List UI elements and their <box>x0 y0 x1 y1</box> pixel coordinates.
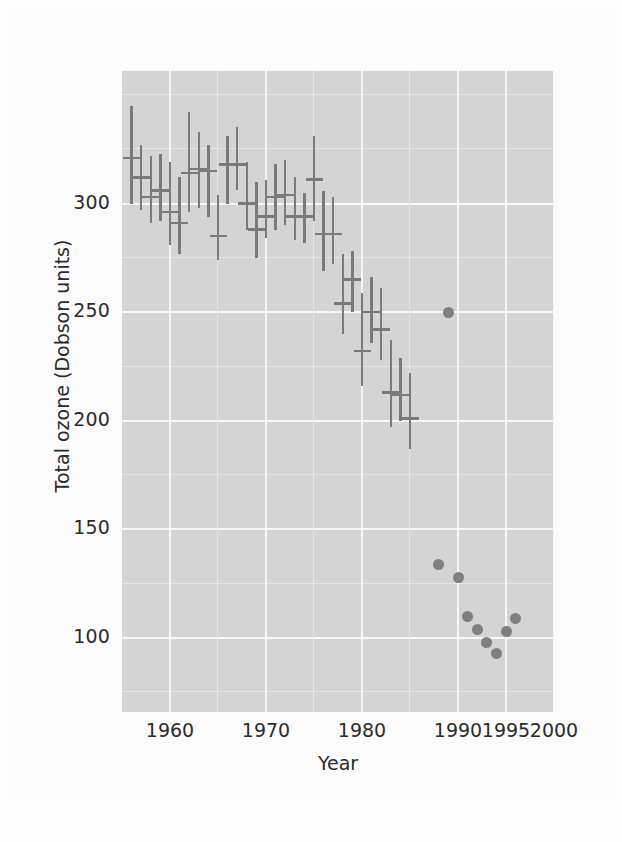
data-point-dot <box>443 307 454 318</box>
data-point-dot <box>472 624 483 635</box>
mean-tick <box>306 178 323 180</box>
range-bar <box>255 182 257 258</box>
mean-tick <box>392 394 409 396</box>
plot-wrapper: 100150200250300 196019701980199019952000… <box>0 0 622 842</box>
y-tick-label: 150 <box>73 516 110 538</box>
mean-tick <box>152 189 169 191</box>
range-bar <box>236 127 238 190</box>
x-tick-label: 1995 <box>482 719 530 741</box>
range-bar <box>207 145 209 217</box>
x-axis-label: Year <box>122 752 554 774</box>
range-bar <box>226 136 228 203</box>
gridline-horizontal <box>122 420 554 422</box>
range-bar <box>361 293 363 386</box>
gridline-vertical <box>217 71 218 712</box>
mean-tick <box>123 157 140 159</box>
mean-tick <box>248 228 265 230</box>
range-bar <box>399 358 401 421</box>
range-bar <box>265 180 267 239</box>
mean-tick <box>162 211 179 213</box>
gridline-horizontal <box>122 528 554 530</box>
range-bar <box>380 288 382 360</box>
figure-canvas: 100150200250300 196019701980199019952000… <box>0 0 622 842</box>
gridline-horizontal <box>122 691 554 692</box>
mean-tick <box>171 222 188 224</box>
mean-tick <box>344 278 361 280</box>
mean-tick <box>258 215 275 217</box>
gridline-vertical <box>265 71 267 712</box>
range-bar <box>130 106 132 204</box>
mean-tick <box>402 417 419 419</box>
mean-tick <box>238 202 255 204</box>
gridline-vertical <box>361 71 363 712</box>
data-point-dot <box>491 648 502 659</box>
mean-tick <box>267 196 284 198</box>
mean-tick <box>296 215 313 217</box>
y-tick-label: 100 <box>73 625 110 647</box>
gridline-horizontal <box>122 257 554 258</box>
range-bar <box>322 191 324 271</box>
x-tick-label: 1970 <box>242 719 290 741</box>
data-point-dot <box>433 559 444 570</box>
range-bar <box>294 177 296 240</box>
plot-area <box>122 71 554 712</box>
range-bar <box>246 162 248 229</box>
range-bar <box>342 254 344 334</box>
data-point-dot <box>510 613 521 624</box>
y-tick-label: 300 <box>73 191 110 213</box>
range-bar <box>188 112 190 212</box>
gridline-horizontal <box>122 311 554 313</box>
data-point-dot <box>462 611 473 622</box>
mean-tick <box>373 328 390 330</box>
gridline-vertical <box>505 71 507 712</box>
gridline-horizontal <box>122 366 554 367</box>
range-bar <box>217 195 219 260</box>
mean-tick <box>133 176 150 178</box>
range-bar <box>178 177 180 253</box>
x-tick-label: 1960 <box>146 719 194 741</box>
gridline-horizontal <box>122 474 554 475</box>
range-bar <box>351 251 353 312</box>
mean-tick <box>325 233 342 235</box>
mean-tick <box>181 172 198 174</box>
mean-tick <box>354 350 371 352</box>
x-tick-label: 2000 <box>530 719 578 741</box>
data-point-dot <box>501 626 512 637</box>
gridline-vertical <box>457 71 459 712</box>
mean-tick <box>142 196 159 198</box>
gridline-horizontal <box>122 583 554 584</box>
range-bar <box>409 373 411 449</box>
mean-tick <box>200 170 217 172</box>
range-bar <box>332 197 334 264</box>
y-axis-label: Total ozone (Dobson units) <box>51 156 73 576</box>
gridline-vertical <box>553 71 554 712</box>
x-tick-label: 1980 <box>338 719 386 741</box>
mean-tick <box>229 163 246 165</box>
data-point-dot <box>453 572 464 583</box>
mean-tick <box>363 311 380 313</box>
y-tick-label: 200 <box>73 408 110 430</box>
mean-tick <box>334 302 351 304</box>
mean-tick <box>277 194 294 196</box>
gridline-horizontal <box>122 203 554 205</box>
mean-tick <box>210 235 227 237</box>
data-point-dot <box>481 637 492 648</box>
range-bar <box>390 340 392 427</box>
gridline-horizontal <box>122 148 554 149</box>
y-tick-label: 250 <box>73 299 110 321</box>
range-bar <box>169 162 171 245</box>
gridline-horizontal <box>122 94 554 95</box>
x-tick-label: 1990 <box>434 719 482 741</box>
